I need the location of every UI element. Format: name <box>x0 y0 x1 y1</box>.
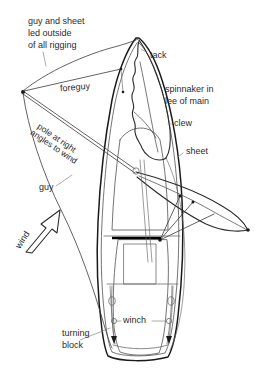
foreguy-lower-attach <box>122 91 125 94</box>
leader-guy <box>56 175 72 186</box>
label-sheet: sheet <box>186 146 209 156</box>
label-foreguy: foreguy <box>60 81 91 94</box>
mainsheet-part-2 <box>160 202 193 240</box>
label-wind: wind <box>13 229 32 251</box>
label-guy-and-sheet-line1: guy and sheet <box>28 16 85 26</box>
mainsheet-block-mid <box>192 201 195 204</box>
spinnaker-belly-fold <box>140 62 158 152</box>
label-guy-and-sheet-line3: of all rigging <box>28 40 77 50</box>
transom-line <box>113 345 168 349</box>
label-turning-block-line1: turning <box>62 328 90 338</box>
label-spinnaker-line2: lee of main <box>165 96 209 106</box>
leader-guy-and-sheet <box>43 52 46 66</box>
wind-arrow-group <box>26 210 60 253</box>
hull-cockpit-well <box>113 240 168 355</box>
spinnaker-foot-curve <box>134 112 156 138</box>
diagram-canvas: guy and sheet led outside of all rigging… <box>0 0 276 381</box>
winch-starboard <box>168 297 174 305</box>
pole-inboard-fitting <box>133 168 139 174</box>
label-spinnaker-line1: spinnaker in <box>165 84 214 94</box>
label-winch: winch <box>122 315 146 325</box>
mainsail-lower-edge <box>137 177 248 231</box>
label-guy: guy <box>39 182 54 192</box>
wind-arrow-icon <box>26 210 60 253</box>
mainsheet-block-upper <box>179 195 182 198</box>
label-clew: clew <box>174 118 193 128</box>
spinnaker-rigging-diagram: guy and sheet led outside of all rigging… <box>0 0 276 381</box>
label-turning-block-line2: block <box>62 340 84 350</box>
label-guy-and-sheet-line2: led outside <box>28 28 72 38</box>
boom-outboard-end <box>246 228 250 232</box>
foreguy-deck-attach <box>120 68 123 71</box>
label-tack: tack <box>150 50 167 60</box>
